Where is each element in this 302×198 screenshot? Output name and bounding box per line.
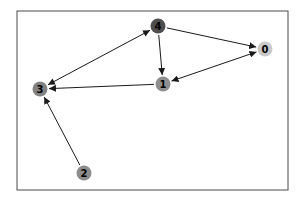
edges-layer — [44, 28, 256, 165]
graph-figure: 01234 — [0, 0, 302, 198]
graph-edge-3-4 — [48, 30, 150, 85]
node-label-4: 4 — [155, 21, 162, 32]
graph-edge-4-0 — [167, 28, 256, 47]
graph-edge-0-1 — [172, 52, 257, 81]
node-label-2: 2 — [81, 168, 88, 179]
node-label-0: 0 — [262, 44, 269, 55]
node-label-1: 1 — [160, 79, 167, 90]
graph-canvas: 01234 — [0, 0, 302, 198]
plot-frame — [17, 11, 288, 190]
graph-edge-2-3 — [44, 97, 80, 165]
node-label-3: 3 — [37, 84, 44, 95]
graph-edge-1-3 — [49, 84, 154, 88]
graph-edge-4-1 — [159, 35, 162, 75]
